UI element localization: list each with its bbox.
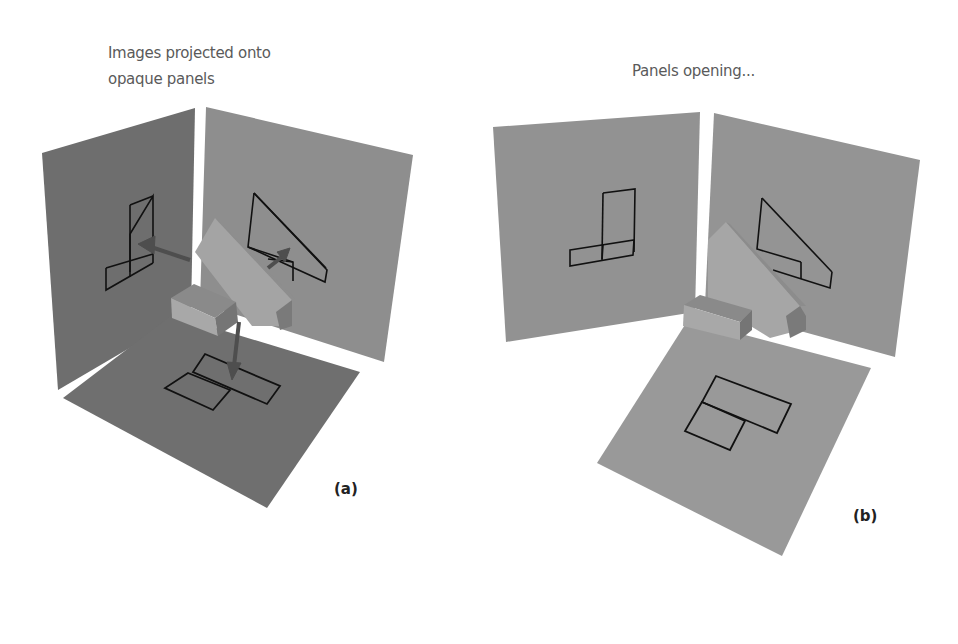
caption-a-line2: opaque panels: [108, 66, 271, 92]
floor-panel-b: [597, 320, 871, 556]
label-b: (b): [853, 507, 877, 525]
caption-a: Images projected onto opaque panels: [108, 40, 271, 92]
figure-b: [493, 112, 920, 556]
left-panel-b: [493, 112, 700, 342]
caption-b: Panels opening...: [632, 58, 755, 84]
diagram-canvas: [0, 0, 958, 644]
label-a: (a): [334, 480, 358, 498]
figure-a: [42, 107, 413, 508]
caption-a-line1: Images projected onto: [108, 40, 271, 66]
